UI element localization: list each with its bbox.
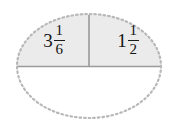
ellipse-fraction-diagram: 3 1 6 1 1 2 bbox=[0, 0, 177, 133]
right-whole-number: 1 bbox=[117, 31, 128, 50]
lower-half-region bbox=[0, 66, 177, 133]
right-cell[interactable]: 1 1 2 bbox=[89, 14, 163, 66]
left-denominator: 6 bbox=[55, 42, 65, 57]
right-numerator: 1 bbox=[129, 23, 139, 38]
right-denominator: 2 bbox=[129, 42, 139, 57]
left-cell[interactable]: 3 1 6 bbox=[17, 14, 89, 66]
left-mixed-number: 3 1 6 bbox=[43, 23, 65, 57]
left-fraction: 1 6 bbox=[54, 23, 65, 57]
left-whole-number: 3 bbox=[43, 31, 54, 50]
cells-layer: 3 1 6 1 1 2 bbox=[17, 14, 163, 66]
left-numerator: 1 bbox=[55, 23, 65, 38]
right-fraction: 1 2 bbox=[128, 23, 139, 57]
right-mixed-number: 1 1 2 bbox=[117, 23, 139, 57]
